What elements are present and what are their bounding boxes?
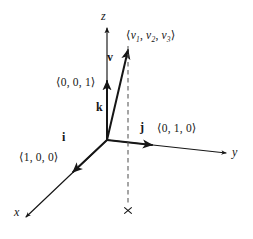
vector-label-i: i xyxy=(62,131,65,143)
vector-diagram-figure: z y x k j i v ⟨0, 0, 1⟩ ⟨0, 1, 0⟩ ⟨1, 0,… xyxy=(0,0,253,239)
vector-label-v: v xyxy=(107,51,113,63)
component-v2-sub: 2 xyxy=(151,35,155,44)
vector-arrow-i xyxy=(73,140,107,172)
axis-label-y: y xyxy=(232,146,237,158)
comma-1: , xyxy=(140,29,143,41)
projection-cross-marker xyxy=(125,208,132,214)
components-label-k: ⟨0, 0, 1⟩ xyxy=(56,77,96,89)
comma-2: , xyxy=(155,29,158,41)
vector-arrow-j xyxy=(107,140,152,145)
axis-label-x: x xyxy=(14,206,19,218)
axis-label-z: z xyxy=(101,10,106,22)
component-v1-sub: 1 xyxy=(136,35,140,44)
vector-label-k: k xyxy=(96,101,103,113)
components-label-i: ⟨1, 0, 0⟩ xyxy=(19,152,59,164)
bracket-close: ⟩ xyxy=(171,29,176,41)
vector-label-j: j xyxy=(140,121,144,133)
components-label-j: ⟨0, 1, 0⟩ xyxy=(157,123,197,135)
components-label-v: ⟨v1, v2, v3⟩ xyxy=(126,30,175,42)
component-v3-sub: 3 xyxy=(167,35,171,44)
